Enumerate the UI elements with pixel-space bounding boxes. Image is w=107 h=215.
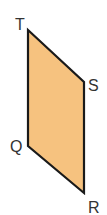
vertex-label-q: Q (10, 138, 22, 155)
vertex-label-r: R (88, 199, 100, 215)
parallelogram-diagram: T S Q R (0, 0, 107, 215)
vertex-label-s: S (88, 77, 99, 94)
parallelogram-qrst (28, 30, 84, 193)
vertex-label-t: T (15, 16, 25, 33)
